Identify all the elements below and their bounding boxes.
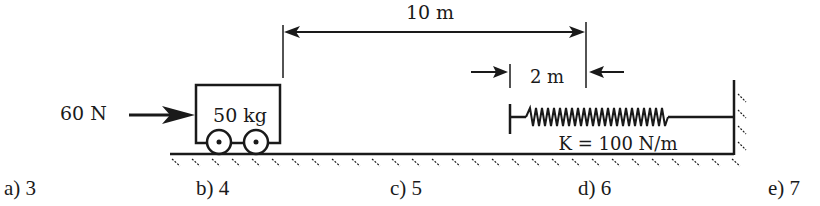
distance-label: 10 m	[406, 1, 454, 23]
answer-choice-d[interactable]: d) 6	[578, 176, 611, 201]
choice-letter: b)	[196, 176, 214, 200]
answer-choice-a[interactable]: a) 3	[4, 176, 36, 201]
choice-letter: e)	[768, 176, 784, 200]
compression-dimension: 2 m	[471, 64, 624, 88]
cart: 50 kg	[196, 85, 280, 154]
answer-choices: a) 3 b) 4 c) 5 d) 6 e) 7	[0, 176, 820, 204]
choice-letter: a)	[4, 176, 20, 200]
force-arrow: 60 N	[60, 102, 195, 124]
mass-label: 50 kg	[213, 104, 267, 126]
choice-value: 6	[601, 176, 612, 200]
answer-choice-c[interactable]: c) 5	[390, 176, 422, 201]
answer-choice-e[interactable]: e) 7	[768, 176, 800, 201]
wall	[734, 80, 746, 155]
compression-label: 2 m	[530, 66, 564, 87]
answer-choice-b[interactable]: b) 4	[196, 176, 229, 201]
choice-value: 7	[790, 176, 801, 200]
spring: K = 100 N/m	[510, 104, 734, 154]
ground	[170, 154, 740, 166]
spring-constant-label: K = 100 N/m	[559, 133, 678, 154]
choice-letter: d)	[578, 176, 596, 200]
choice-value: 5	[412, 176, 423, 200]
choice-value: 3	[26, 176, 37, 200]
force-label: 60 N	[60, 102, 107, 124]
choice-letter: c)	[390, 176, 406, 200]
choice-value: 4	[219, 176, 230, 200]
